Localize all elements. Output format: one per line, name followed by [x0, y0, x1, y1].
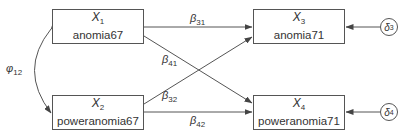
path-arrow-beta32	[144, 37, 252, 104]
node-x2-name: poweranomia67	[57, 115, 139, 128]
node-x3: X3 anomia71	[253, 9, 345, 44]
node-x4-symbol: X4	[293, 97, 305, 114]
node-x3-symbol: X3	[293, 11, 305, 28]
node-x2-symbol: X2	[92, 97, 104, 114]
path-label-beta42: β42	[190, 114, 205, 129]
node-x1: X1 anomia67	[52, 9, 144, 44]
path-arrow-beta41	[144, 36, 252, 103]
path-label-beta32: β32	[162, 89, 177, 104]
path-label-beta31: β31	[190, 12, 205, 27]
covariance-arrow-phi12	[35, 29, 52, 113]
node-x1-symbol: X1	[92, 11, 104, 28]
node-x2: X2 poweranomia67	[52, 95, 144, 130]
error-term-delta4: δ4	[380, 103, 398, 121]
error-term-delta3: δ3	[380, 18, 398, 36]
node-x3-name: anomia71	[274, 29, 325, 42]
node-x4-name: poweranomia71	[258, 115, 340, 128]
node-x1-name: anomia67	[73, 29, 124, 42]
path-label-beta41: β41	[162, 53, 177, 68]
node-x4: X4 poweranomia71	[253, 95, 345, 130]
covariance-label-phi12: φ12	[6, 62, 22, 77]
